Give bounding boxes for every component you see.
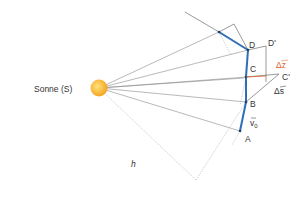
label-v0: v0 xyxy=(250,118,258,129)
label-C: C xyxy=(250,64,256,74)
point-A xyxy=(239,130,242,133)
orbit-path xyxy=(219,32,248,131)
point-top xyxy=(218,31,221,34)
label-A: A xyxy=(245,134,251,144)
label-C-prime: C' xyxy=(282,72,290,82)
delta-z-vector xyxy=(246,76,266,77)
construction-lines xyxy=(99,32,248,180)
label-B: B xyxy=(250,99,256,109)
label-h: h xyxy=(131,159,136,169)
label-D-prime: D' xyxy=(268,38,276,48)
label-delta-s: Δs xyxy=(274,86,284,96)
label-D: D xyxy=(249,40,255,50)
kepler-area-diagram: Sonne (S) A B C D C' D' Δz Δs v0 h xyxy=(0,0,304,202)
orbit-points xyxy=(218,31,250,133)
parallelogram-lines xyxy=(185,12,279,102)
label-delta-z: Δz xyxy=(276,60,286,70)
sun-label: Sonne (S) xyxy=(34,84,72,94)
sun-rays xyxy=(99,32,248,131)
point-B xyxy=(245,101,248,104)
sun-icon xyxy=(91,80,108,97)
